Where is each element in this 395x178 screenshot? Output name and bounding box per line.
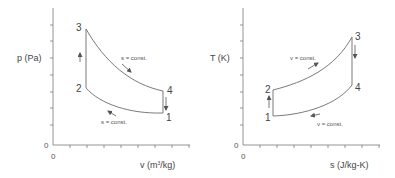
pv-upper-annotation: s = const. — [121, 55, 147, 61]
ts-y-zero-label: 0 — [234, 141, 239, 150]
pv-y-ticks — [50, 25, 53, 125]
ts-upper-annotation: v = const. — [290, 55, 316, 61]
pv-compression-arrow-icon — [108, 111, 116, 116]
pv-y-zero-label: 0 — [44, 141, 49, 150]
ts-axes — [240, 8, 380, 148]
ts-x-ticks — [260, 145, 379, 148]
ts-process-4-1 — [273, 85, 352, 116]
pv-expansion-arrow-icon — [122, 64, 131, 72]
ts-heat-addition-arrow-icon — [308, 63, 318, 69]
ts-x-axis-label: s (J/kg-K) — [330, 160, 369, 170]
pv-x-ticks — [70, 145, 189, 148]
pv-diagram: p (Pa) 0 0 v (m3/kg) 3 2 4 1 s = const. … — [17, 8, 190, 170]
pv-arrows — [80, 53, 166, 116]
pv-x-zero-label: 0 — [51, 152, 56, 161]
pv-axes — [50, 8, 190, 148]
ts-process-2-3 — [273, 37, 352, 90]
pv-x-axis-label: v (m3/kg) — [140, 160, 175, 170]
ts-heat-rejection-arrow-icon — [311, 114, 320, 116]
ts-lower-annotation: v = const. — [317, 121, 343, 127]
pv-lower-annotation: s = const. — [101, 119, 127, 125]
otto-cycle-diagrams: p (Pa) 0 0 v (m3/kg) 3 2 4 1 s = const. … — [0, 0, 395, 178]
ts-x-zero-label: 0 — [241, 152, 246, 161]
ts-y-axis-label: T (K) — [210, 53, 230, 63]
ts-cycle — [273, 37, 352, 116]
ts-y-ticks — [240, 25, 243, 125]
pv-process-1-2 — [86, 88, 163, 113]
ts-point-4-label: 4 — [355, 82, 361, 93]
pv-point-2-label: 2 — [76, 83, 82, 94]
pv-y-axis-label: p (Pa) — [17, 53, 42, 63]
ts-point-1-label: 1 — [265, 112, 271, 123]
pv-cycle — [86, 29, 163, 113]
ts-point-2-label: 2 — [265, 84, 271, 95]
ts-point-3-label: 3 — [355, 31, 361, 42]
pv-point-1-label: 1 — [166, 112, 172, 123]
pv-point-3-label: 3 — [76, 22, 82, 33]
ts-diagram: T (K) 0 0 s (J/kg-K) 3 4 2 1 v = const. … — [210, 8, 380, 170]
pv-point-4-label: 4 — [167, 85, 173, 96]
